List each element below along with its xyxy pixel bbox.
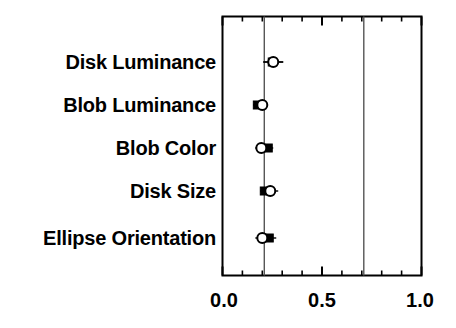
xtick-label-2: 1.0 (406, 289, 434, 312)
marker-open-4 (257, 233, 267, 243)
marker-open-0 (268, 57, 278, 67)
plot-frame (223, 17, 422, 276)
forest-plot-figure: Disk Luminance Blob Luminance Blob Color… (0, 0, 456, 328)
marker-open-3 (265, 186, 275, 196)
marker-open-2 (256, 143, 266, 153)
marker-open-1 (257, 100, 267, 110)
xtick-label-0: 0.0 (210, 289, 238, 312)
xtick-label-1: 0.5 (308, 289, 336, 312)
plot-area (0, 0, 456, 328)
